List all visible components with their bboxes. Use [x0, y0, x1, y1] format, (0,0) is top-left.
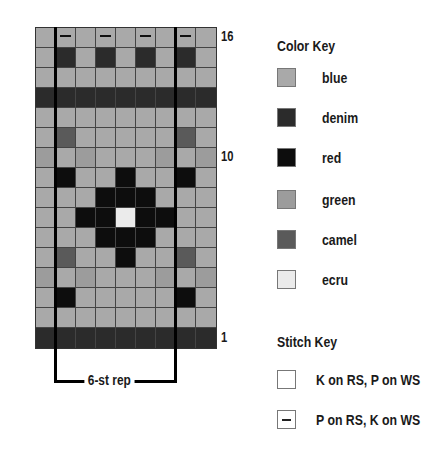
- chart-cell: [136, 268, 156, 288]
- chart-cell: [116, 268, 136, 288]
- chart-cell: [136, 148, 156, 168]
- chart-cell: [76, 188, 96, 208]
- chart-cell: [36, 48, 56, 68]
- chart-cell: [96, 128, 116, 148]
- chart-cell: [76, 208, 96, 228]
- row-number-16: 16: [221, 28, 233, 44]
- chart-cell: [156, 288, 176, 308]
- chart-cell: [176, 308, 196, 328]
- repeat-boundary-right: [174, 27, 177, 350]
- chart-cell: [96, 68, 116, 88]
- chart-cell: [196, 308, 216, 328]
- chart-cell: [136, 228, 156, 248]
- chart-cell: [116, 188, 136, 208]
- chart-cell: [136, 288, 156, 308]
- chart-cell: [176, 328, 196, 348]
- chart-cell: [36, 268, 56, 288]
- chart-cell: [196, 288, 216, 308]
- chart-cell: [96, 28, 116, 48]
- dash-square-icon: [277, 410, 296, 429]
- color-key-label: red: [322, 149, 341, 166]
- chart-cell: [76, 268, 96, 288]
- chart-cell: [156, 188, 176, 208]
- chart-cell: [56, 308, 76, 328]
- chart-cell: [176, 168, 196, 188]
- chart-cell: [56, 48, 76, 68]
- purl-dash-icon: [180, 35, 191, 37]
- chart-cell: [116, 108, 136, 128]
- chart-cell: [176, 28, 196, 48]
- chart-cell: [76, 148, 96, 168]
- chart-cell: [136, 28, 156, 48]
- purl-dash-icon: [100, 35, 111, 37]
- blue-swatch-icon: [277, 68, 296, 87]
- chart-cell: [76, 328, 96, 348]
- chart-cell: [196, 108, 216, 128]
- repeat-label: 6-st rep: [84, 372, 134, 388]
- chart-cell: [56, 68, 76, 88]
- chart-cell: [76, 28, 96, 48]
- chart-cell: [56, 288, 76, 308]
- chart-cell: [156, 48, 176, 68]
- chart-cell: [96, 188, 116, 208]
- chart-cell: [196, 28, 216, 48]
- knitting-chart-grid: [35, 27, 217, 349]
- chart-cell: [96, 248, 116, 268]
- color-key-label: blue: [322, 69, 347, 86]
- chart-cell: [36, 148, 56, 168]
- stitch-key-item-knit: K on RS, P on WS: [277, 370, 436, 389]
- chart-cell: [36, 128, 56, 148]
- chart-cell: [36, 188, 56, 208]
- chart-cell: [56, 248, 76, 268]
- chart-cell: [76, 108, 96, 128]
- stitch-key-title: Stitch Key: [277, 333, 337, 350]
- chart-cell: [96, 108, 116, 128]
- purl-dash-icon: [140, 35, 151, 37]
- chart-cell: [96, 148, 116, 168]
- chart-cell: [76, 48, 96, 68]
- color-key-label: camel: [322, 231, 357, 248]
- chart-cell: [176, 288, 196, 308]
- chart-cell: [156, 248, 176, 268]
- chart-cell: [156, 28, 176, 48]
- chart-cell: [136, 88, 156, 108]
- chart-cell: [56, 208, 76, 228]
- chart-cell: [36, 108, 56, 128]
- chart-cell: [136, 328, 156, 348]
- chart-cell: [156, 68, 176, 88]
- chart-cell: [96, 48, 116, 68]
- chart-cell: [36, 88, 56, 108]
- chart-cell: [76, 128, 96, 148]
- chart-cell: [56, 168, 76, 188]
- chart-cell: [36, 68, 56, 88]
- chart-cell: [176, 208, 196, 228]
- chart-cell: [116, 288, 136, 308]
- chart-cell: [116, 208, 136, 228]
- chart-cell: [56, 128, 76, 148]
- chart-cell: [116, 88, 136, 108]
- chart-cell: [116, 128, 136, 148]
- chart-cell: [176, 268, 196, 288]
- chart-cell: [196, 128, 216, 148]
- chart-cell: [76, 88, 96, 108]
- chart-cell: [76, 288, 96, 308]
- ecru-swatch-icon: [277, 270, 296, 289]
- chart-cell: [116, 28, 136, 48]
- chart-cell: [96, 308, 116, 328]
- repeat-boundary-left: [54, 27, 57, 350]
- chart-cell: [96, 168, 116, 188]
- chart-cell: [176, 228, 196, 248]
- color-key-item-denim: denim: [277, 108, 366, 127]
- chart-cell: [116, 328, 136, 348]
- chart-cell: [136, 188, 156, 208]
- chart-cell: [96, 228, 116, 248]
- chart-cell: [56, 188, 76, 208]
- stitch-key-label: K on RS, P on WS: [316, 371, 420, 388]
- chart-cell: [136, 68, 156, 88]
- chart-cell: [156, 268, 176, 288]
- stitch-key-label: P on RS, K on WS: [316, 411, 420, 428]
- chart-cell: [116, 228, 136, 248]
- green-swatch-icon: [277, 190, 296, 209]
- chart-cell: [156, 88, 176, 108]
- chart-cell: [176, 148, 196, 168]
